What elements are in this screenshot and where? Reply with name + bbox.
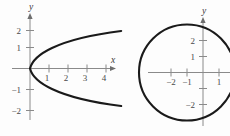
circle-x-label-1: 1	[217, 77, 222, 87]
parabola-figure-panel: 1 2 3 4 2 1 −1 −2 y x	[0, 0, 124, 136]
parabola-y-axis-name: y	[28, 2, 34, 12]
parabola-x-label-4: 4	[102, 73, 107, 83]
figure-pair: 1 2 3 4 2 1 −1 −2 y x −2 −1	[0, 0, 230, 136]
parabola-y-label-neg1: −1	[11, 85, 21, 95]
circle-y-axis-arrow-icon	[200, 17, 205, 23]
circle-figure-panel: −2 −1 1 2 1 −2 y	[124, 0, 230, 136]
parabola-x-label-1: 1	[45, 73, 50, 83]
parabola-y-axis-arrow-icon	[27, 13, 32, 19]
parabola-y-label-neg2: −2	[11, 106, 21, 116]
parabola-x-axis-arrow-icon	[110, 66, 116, 71]
circle-y-label-1: 1	[191, 52, 196, 62]
circle-svg: −2 −1 1 2 1 −2 y	[124, 0, 230, 136]
parabola-y-label-2: 2	[17, 26, 22, 36]
circle-x-label-neg2: −2	[166, 77, 176, 87]
circle-x-label-neg1: −1	[182, 77, 192, 87]
parabola-svg: 1 2 3 4 2 1 −1 −2 y x	[0, 0, 124, 136]
parabola-x-axis-name: x	[110, 55, 116, 65]
circle-y-label-neg2: −2	[185, 100, 195, 110]
parabola-x-label-3: 3	[83, 73, 88, 83]
parabola-x-label-2: 2	[64, 73, 69, 83]
circle-y-axis-name: y	[201, 6, 207, 16]
parabola-y-label-1: 1	[17, 43, 22, 53]
circle-y-label-2: 2	[191, 36, 196, 46]
